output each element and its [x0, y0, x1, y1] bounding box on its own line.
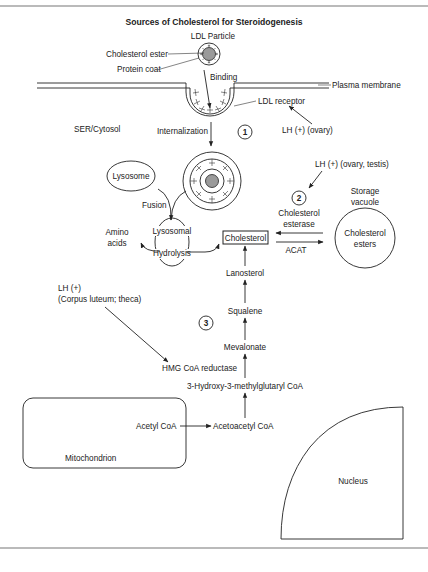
svg-text:Cholesterol: Cholesterol — [225, 234, 267, 243]
ldl-receptor-label: LDL receptor — [258, 97, 305, 106]
mevalonate-node: Mevalonate — [224, 343, 267, 352]
lh-corpus-arrow — [105, 307, 168, 362]
storage-vacuole: Cholesterol esters — [335, 208, 395, 268]
lh-ovary-testis-label: LH (+) (ovary, testis) — [315, 160, 389, 169]
acetoacetyl-coa-node: Acetoacetyl CoA — [213, 422, 274, 431]
esterase-label-2: esterase — [283, 220, 315, 229]
svg-text:2: 2 — [297, 194, 302, 203]
storage-vacuole-label-2: vacuole — [351, 198, 380, 207]
svg-text:Hydrolysis: Hydrolysis — [153, 249, 191, 258]
svg-text:3: 3 — [204, 319, 209, 328]
acids-label: acids — [107, 239, 126, 248]
ser-cytosol-label: SER/Cytosol — [74, 125, 121, 134]
step-3-badge: 3 — [199, 316, 213, 330]
svg-text:Cholesterol: Cholesterol — [344, 229, 386, 238]
step-1-badge: 1 — [238, 125, 252, 139]
fusion-label: Fusion — [142, 201, 167, 210]
internalization-label: Internalization — [157, 127, 208, 136]
squalene-node: Squalene — [228, 307, 263, 316]
svg-text:Nucleus: Nucleus — [338, 477, 368, 486]
endosome — [183, 152, 241, 210]
protein-coat-leader — [157, 58, 199, 70]
ldl-particle-label: LDL Particle — [191, 32, 236, 41]
step-2-badge: 2 — [292, 191, 306, 205]
cholesterol-node: Cholesterol — [223, 231, 268, 244]
cholesterol-diagram: Sources of Cholesterol for Steroidogenes… — [0, 0, 428, 572]
figure-title: Sources of Cholesterol for Steroidogenes… — [125, 17, 302, 27]
hmg-coa-node: 3-Hydroxy-3-methylglutaryl CoA — [187, 382, 304, 391]
protein-coat-label: Protein coat — [117, 65, 161, 74]
svg-text:esters: esters — [354, 240, 376, 249]
lysosomal-hydrolysis: Lysosomal Hydrolysis — [148, 218, 196, 266]
mitochondrion: Mitochondrion — [23, 398, 186, 468]
binding-label: Binding — [210, 73, 238, 82]
lanosterol-node: Lanosterol — [226, 269, 264, 278]
svg-text:1: 1 — [243, 128, 248, 137]
fusion-arrow-right — [171, 191, 186, 220]
nucleus: Nucleus — [281, 407, 403, 539]
ldl-particle — [198, 43, 220, 65]
plasma-membrane-label: Plasma membrane — [332, 81, 401, 90]
lh-ovary-arrow — [289, 106, 312, 124]
ldl-receptor-leader — [234, 101, 256, 106]
cholesterol-ester-leader — [168, 53, 204, 54]
storage-vacuole-label-1: Storage — [351, 187, 380, 196]
acetyl-coa-node: Acetyl CoA — [136, 422, 177, 431]
lysosome: Lysosome — [107, 161, 155, 191]
esterase-label-1: Cholesterol — [278, 209, 320, 218]
amino-label: Amino — [105, 228, 129, 237]
svg-text:Lysosomal: Lysosomal — [153, 227, 192, 236]
hmg-reductase-label: HMG CoA reductase — [162, 364, 238, 373]
lh-corpus-label-1: LH (+) — [58, 284, 81, 293]
cholesterol-ester-label: Cholesterol ester — [106, 50, 168, 59]
lh-ovary-testis-arrow — [309, 171, 322, 188]
svg-text:Lysosome: Lysosome — [112, 172, 149, 181]
lh-corpus-label-2: (Corpus luteum; theca) — [58, 295, 142, 304]
svg-text:Mitochondrion: Mitochondrion — [65, 454, 117, 463]
lh-ovary-label: LH (+) (ovary) — [282, 126, 333, 135]
acat-label: ACAT — [285, 246, 306, 255]
